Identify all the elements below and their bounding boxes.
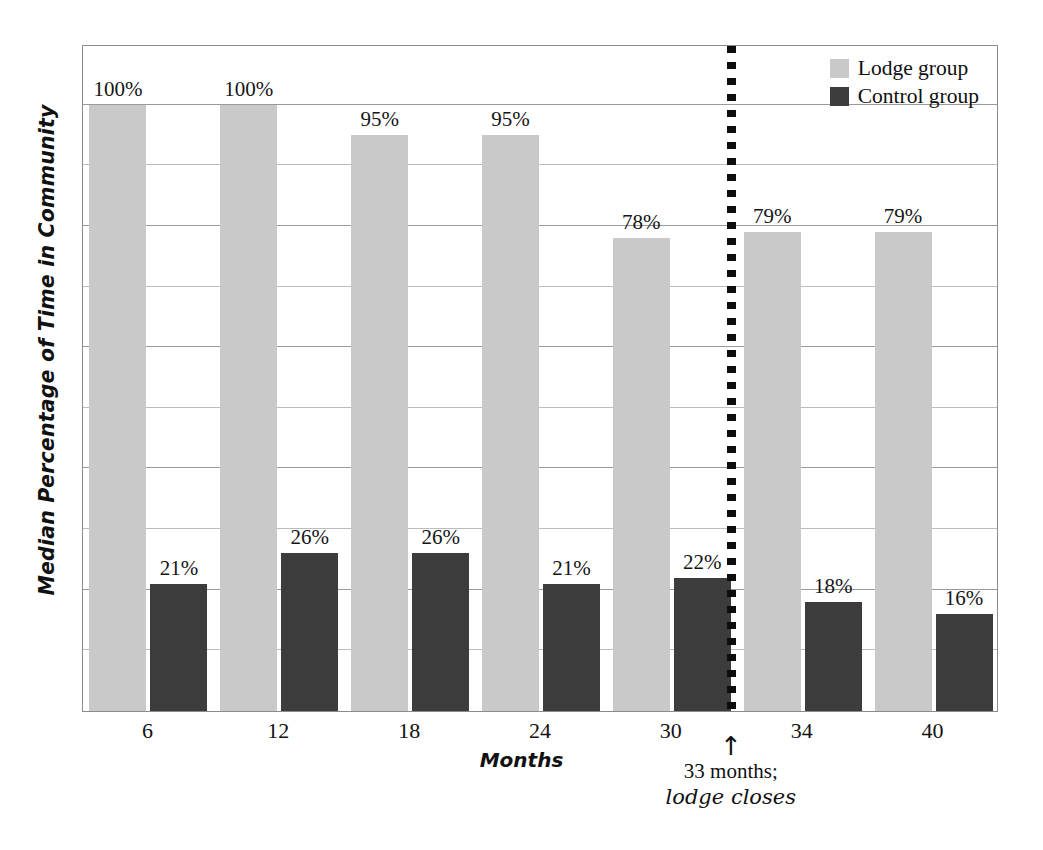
- x-tick-24: 24: [475, 718, 606, 744]
- bar-control-34mo: [805, 602, 862, 711]
- legend-swatch-control-group: [830, 87, 849, 106]
- bar-lodge-30mo: [613, 238, 670, 711]
- bar-label-control-40mo: 16%: [926, 586, 1003, 611]
- bar-label-lodge-34mo: 79%: [734, 204, 811, 229]
- bar-control-6mo: [150, 584, 207, 711]
- bar-control-30mo: [674, 578, 731, 711]
- x-tick-40: 40: [867, 718, 998, 744]
- legend-swatch-lodge-group: [830, 59, 849, 78]
- bar-lodge-34mo: [744, 232, 801, 711]
- bar-lodge-24mo: [482, 135, 539, 711]
- legend-item-lodge-group: Lodge group: [830, 54, 979, 82]
- bar-control-24mo: [543, 584, 600, 711]
- lodge-closes-line-1: 33 months;: [606, 758, 856, 784]
- bar-label-control-18mo: 26%: [402, 525, 479, 550]
- bar-control-18mo: [412, 553, 469, 711]
- bar-lodge-6mo: [89, 105, 146, 711]
- legend-label-control-group: Control group: [858, 82, 979, 110]
- lodge-closes-annotation: ↑ 33 months; lodge closes: [606, 736, 856, 810]
- bar-label-control-24mo: 21%: [533, 556, 610, 581]
- y-axis-title: Median Percentage of Time in Community: [34, 0, 60, 700]
- bar-label-lodge-6mo: 100%: [79, 77, 156, 102]
- bar-label-lodge-24mo: 95%: [472, 107, 549, 132]
- bar-control-40mo: [936, 614, 993, 711]
- lodge-closes-line-2: lodge closes: [606, 784, 856, 810]
- legend: Lodge group Control group: [830, 54, 979, 110]
- bar-label-lodge-12mo: 100%: [210, 77, 287, 102]
- x-tick-18: 18: [344, 718, 475, 744]
- legend-label-lodge-group: Lodge group: [858, 54, 968, 82]
- bar-lodge-40mo: [875, 232, 932, 711]
- bar-chart-figure: Median Percentage of Time in Community 1…: [0, 0, 1043, 850]
- legend-item-control-group: Control group: [830, 82, 979, 110]
- up-arrow-icon: ↑: [606, 736, 856, 758]
- lodge-closes-dotted-line: [727, 46, 736, 711]
- bar-label-lodge-30mo: 78%: [603, 210, 680, 235]
- bar-lodge-18mo: [351, 135, 408, 711]
- bar-label-control-12mo: 26%: [271, 525, 348, 550]
- bar-label-control-6mo: 21%: [140, 556, 217, 581]
- bar-label-lodge-18mo: 95%: [341, 107, 418, 132]
- x-tick-6: 6: [82, 718, 213, 744]
- bar-lodge-12mo: [220, 105, 277, 711]
- x-tick-12: 12: [213, 718, 344, 744]
- plot-area: 100%21%100%26%95%26%95%21%78%22%79%18%79…: [82, 45, 998, 712]
- x-axis-title: Months: [0, 748, 1043, 772]
- bar-label-lodge-40mo: 79%: [865, 204, 942, 229]
- bar-control-12mo: [281, 553, 338, 711]
- bar-label-control-34mo: 18%: [795, 574, 872, 599]
